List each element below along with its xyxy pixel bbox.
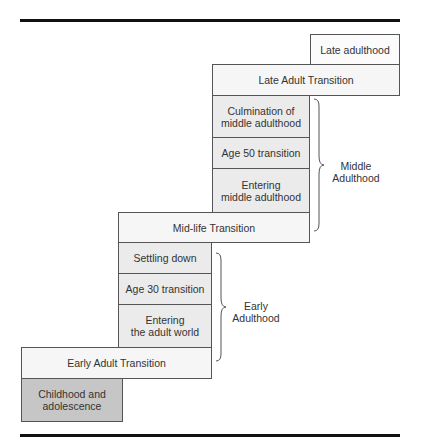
era-middle-adulthood: Middle Adulthood <box>326 160 386 184</box>
stage-late-adulthood: Late adulthood <box>310 34 400 65</box>
top-rule <box>20 19 400 22</box>
stage-mid-life-transition: Mid-life Transition <box>118 212 310 243</box>
early-adulthood-brace-icon <box>214 252 228 362</box>
stage-childhood-adolescence: Childhood and adolescence <box>21 378 123 422</box>
stage-early-adult-transition: Early Adult Transition <box>21 347 212 379</box>
stage-culmination-middle-adulthood: Culmination of middle adulthood <box>212 95 310 138</box>
stage-age-50-transition: Age 50 transition <box>212 137 310 169</box>
stage-entering-adult-world: Entering the adult world <box>118 304 212 348</box>
stage-late-adult-transition: Late Adult Transition <box>212 64 400 96</box>
stage-entering-middle-adulthood: Entering middle adulthood <box>212 168 310 213</box>
stage-age-30-transition: Age 30 transition <box>118 273 212 305</box>
stage-settling-down: Settling down <box>118 242 212 274</box>
era-early-adulthood: Early Adulthood <box>228 300 284 324</box>
middle-adulthood-brace-icon <box>312 98 326 232</box>
